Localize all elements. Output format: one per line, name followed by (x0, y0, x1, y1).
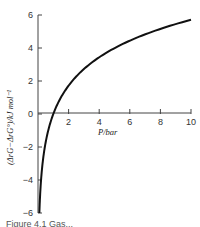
y-ticks: −6−4−20246 (23, 10, 42, 218)
data-curve (39, 20, 191, 213)
y-tick-label: 0 (28, 109, 33, 119)
y-tick-label: −4 (23, 175, 33, 185)
chart: −6−4−20246 246810 P/bar (ΔrG−ΔrG°)/kJ mo… (0, 0, 200, 227)
figure-caption: Figure 4.1 Gas... (6, 219, 73, 227)
y-axis-title: (ΔrG−ΔrG°)/kJ mol⁻¹ (5, 90, 15, 165)
x-axis-title: P/bar (97, 127, 118, 137)
x-tick-label: 10 (186, 117, 196, 127)
x-tick-label: 2 (66, 117, 71, 127)
axes (38, 15, 191, 213)
y-tick-label: 6 (28, 10, 33, 20)
x-tick-label: 8 (158, 117, 163, 127)
y-tick-label: −2 (23, 142, 33, 152)
x-ticks: 246810 (66, 109, 196, 127)
y-tick-label: 4 (28, 43, 33, 53)
y-tick-label: 2 (28, 76, 33, 86)
x-tick-label: 6 (127, 117, 132, 127)
y-tick-label: −6 (23, 208, 33, 218)
x-tick-label: 4 (97, 117, 102, 127)
